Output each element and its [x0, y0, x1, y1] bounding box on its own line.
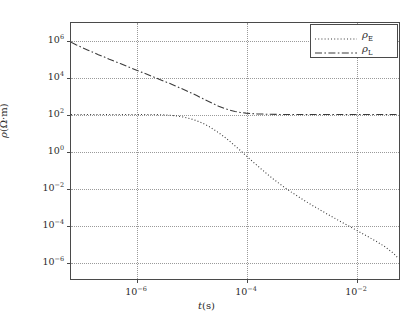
data-curves — [71, 23, 399, 279]
y-axis-tick-labels: 10610410210010−210−410−6 — [0, 0, 64, 326]
y-tickmark — [67, 226, 71, 227]
y-tickmark — [67, 115, 71, 116]
legend-item: ρE — [314, 27, 394, 41]
y-tick-label: 100 — [48, 146, 64, 156]
y-tickmark — [67, 263, 71, 264]
y-tickmark — [67, 189, 71, 190]
x-tickmark — [357, 279, 358, 283]
y-axis-label-units: (Ω·m) — [0, 103, 9, 132]
figure-canvas: 10610410210010−210−410−6 ρ(Ω·m) 10−610−4… — [0, 0, 413, 326]
y-tick-label: 10−6 — [42, 257, 64, 267]
y-tickmark — [67, 78, 71, 79]
y-axis-label-symbol: ρ — [0, 132, 9, 138]
plot-area — [70, 22, 400, 280]
y-tick-label: 104 — [48, 72, 64, 82]
chart-legend: ρEρL — [310, 24, 398, 58]
y-tick-label: 106 — [48, 35, 64, 45]
y-axis-label: ρ(Ω·m) — [0, 18, 9, 138]
x-axis-label-units: (s) — [202, 300, 215, 311]
x-tickmark — [137, 279, 138, 283]
legend-item: ρL — [314, 41, 394, 55]
series-line-ρ-e — [71, 114, 398, 258]
legend-line-sample — [314, 29, 358, 39]
y-tickmark — [67, 41, 71, 42]
x-tick-label: 10−4 — [216, 287, 276, 297]
y-tick-label: 10−2 — [42, 183, 64, 193]
legend-label: ρE — [358, 29, 373, 40]
x-tick-label: 10−6 — [106, 287, 166, 297]
legend-label: ρL — [358, 43, 372, 54]
y-tickmark — [67, 152, 71, 153]
x-tickmark — [247, 279, 248, 283]
y-tick-label: 10−4 — [42, 220, 64, 230]
legend-line-sample — [314, 43, 358, 53]
y-tick-label: 102 — [48, 109, 64, 119]
x-axis-label: t(s) — [0, 300, 413, 311]
x-tick-label: 10−2 — [326, 287, 386, 297]
